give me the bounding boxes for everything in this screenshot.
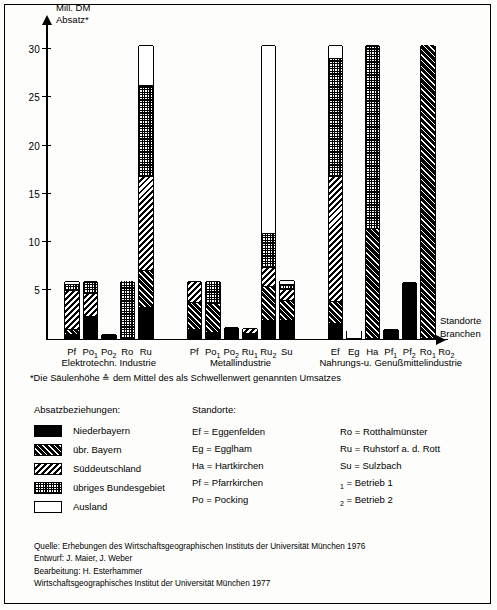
y-tick-label: 5 (34, 285, 40, 296)
legend-title: Absatzbeziehungen: (34, 404, 165, 415)
bar-segment (206, 281, 220, 303)
bar-segment (139, 307, 153, 338)
legend-rows: Niederbayernübr. BayernSüddeutschlandübr… (34, 422, 165, 515)
bar-segment (329, 176, 343, 301)
bar-segment (102, 334, 116, 338)
bar-segment (65, 329, 79, 334)
betrieb-note-row: 1 = Betrieb 1 (340, 477, 440, 494)
bar (64, 282, 80, 339)
bar-segment (188, 329, 202, 338)
places-column-1: Ef = EggenfeldenEg = EgglhamHa = Hartkir… (192, 426, 265, 511)
legend-swatch (34, 482, 62, 494)
bar-segment (262, 320, 276, 337)
source-line-3: Bearbeitung: H. Esterhammer (34, 566, 365, 578)
y-tick-label: 20 (28, 140, 40, 151)
y-axis-title-line1: Mill. DM (56, 2, 90, 14)
bar (83, 282, 99, 339)
bar (420, 46, 436, 338)
legend-item: übriges Bundesgebiet (34, 479, 165, 496)
betrieb-note-row: 2 = Betrieb 2 (340, 494, 440, 511)
bar-segment (84, 281, 98, 294)
place-abbrev-row: Ru = Ruhstorf a. d. Rott (340, 443, 440, 460)
bar-segment (243, 328, 257, 333)
bar (365, 46, 381, 338)
bar (224, 328, 240, 339)
group-label: Elektrotechn. Industrie (61, 357, 156, 368)
bar-segment (366, 45, 380, 228)
bar (346, 331, 362, 339)
bar-segment (188, 281, 202, 302)
place-abbrev-row: Ro = Rotthalmünster (340, 426, 440, 443)
y-axis-arrow (42, 15, 52, 25)
y-tick-label: 25 (28, 92, 40, 103)
place-abbrev-row: Po = Pocking (192, 494, 265, 511)
bar-segment (280, 284, 294, 290)
chart-page: Mill. DM Absatz* 51015202530 PfPo1Po2RoR… (0, 0, 497, 610)
place-abbrev-row: Su = Sulzbach (340, 460, 440, 477)
y-tick-label: 10 (28, 237, 40, 248)
bar-segment (65, 281, 79, 285)
group-label: Metallindustrie (210, 357, 271, 368)
y-tick (42, 96, 51, 97)
bar-tick-label: Ha (366, 346, 378, 357)
bar-tick-label: Ro (121, 346, 133, 357)
places-column-2: Ro = RotthalmünsterRu = Ruhstorf a. d. R… (340, 426, 440, 511)
plot-area: Mill. DM Absatz* 51015202530 PfPo1Po2RoR… (46, 24, 436, 340)
bar (120, 282, 136, 339)
bar-segment (225, 327, 239, 338)
places-legend: Standorte: Ef = EggenfeldenEg = EgglhamH… (192, 404, 236, 422)
bar-segment (139, 176, 153, 270)
legend-item: Ausland (34, 498, 165, 515)
x-axis-caption: Standorte Branchen (440, 314, 481, 340)
bar-segment (280, 300, 294, 320)
y-tick-label: 30 (28, 44, 40, 55)
y-axis-title-line2: Absatz* (56, 14, 90, 26)
bar-segment (84, 316, 98, 337)
bar-tick-label: Pf (67, 346, 76, 357)
bar-segment (366, 229, 380, 338)
bar (402, 283, 418, 339)
bar-segment (384, 329, 398, 338)
chart-footnote: *Die Säulenhöhe ≙ dem Mittel des als Sch… (30, 372, 341, 383)
bar (242, 329, 258, 339)
x-axis (46, 339, 448, 341)
bar-segment (139, 270, 153, 307)
bar-segment (243, 333, 257, 338)
bar-segment (188, 302, 202, 329)
source-line-2: Entwurf: J. Maier, J. Weber (34, 553, 365, 565)
bar-segment (121, 281, 135, 338)
y-tick (42, 289, 51, 290)
legend-item-label: Niederbayern (73, 425, 130, 436)
bar (205, 282, 221, 339)
bar (279, 281, 295, 339)
y-tick-label: 15 (28, 188, 40, 199)
y-axis (46, 24, 48, 340)
bar-segment (329, 323, 343, 337)
legend-item-label: Süddeutschland (73, 463, 141, 474)
legend-swatch (34, 444, 62, 456)
y-axis-title: Mill. DM Absatz* (56, 2, 90, 25)
source-block: Quelle: Erhebungen des Wirtschaftsgeogra… (34, 541, 365, 591)
place-abbrev-row: Eg = Egglham (192, 443, 265, 460)
x-axis-caption-line2: Branchen (440, 327, 481, 340)
bar-segment (421, 45, 435, 337)
bar-segment (329, 58, 343, 176)
bar-segment (65, 334, 79, 338)
bar-segment (280, 320, 294, 337)
bar-segment (139, 85, 153, 176)
legend-item: Niederbayern (34, 422, 165, 439)
bar-segment (262, 286, 276, 320)
legend-swatch (34, 425, 62, 437)
place-abbrev-row: Ef = Eggenfelden (192, 426, 265, 443)
bar-segment (65, 290, 79, 329)
bar-tick-label: Pf (190, 346, 199, 357)
bar-segment (206, 332, 220, 338)
bar-segment (280, 280, 294, 284)
bar-segment (403, 282, 417, 338)
bar-segment (84, 293, 98, 316)
bar (138, 46, 154, 338)
bar-segment (329, 301, 343, 323)
bar-segment (65, 284, 79, 290)
bar-segment (329, 45, 343, 58)
legend-item-label: Ausland (73, 501, 107, 512)
